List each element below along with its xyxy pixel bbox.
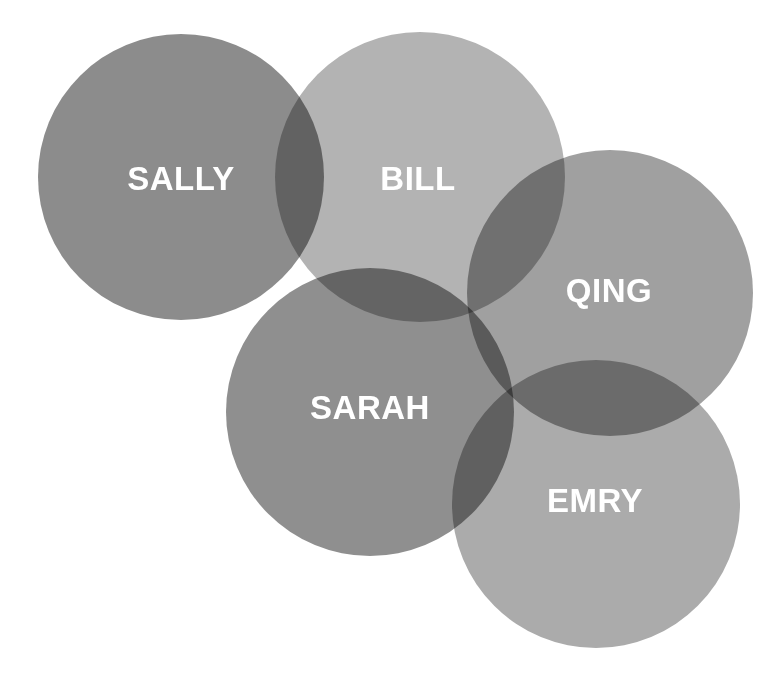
venn-label-emry: EMRY bbox=[547, 482, 643, 519]
venn-circle-layer bbox=[38, 32, 753, 648]
venn-label-sarah: SARAH bbox=[310, 389, 430, 426]
venn-diagram-canvas: SALLYBILLQINGSARAHEMRY bbox=[0, 0, 774, 684]
venn-label-bill: BILL bbox=[380, 160, 455, 197]
venn-label-qing: QING bbox=[566, 272, 652, 309]
venn-diagram-svg: SALLYBILLQINGSARAHEMRY bbox=[0, 0, 774, 684]
venn-label-sally: SALLY bbox=[127, 160, 235, 197]
